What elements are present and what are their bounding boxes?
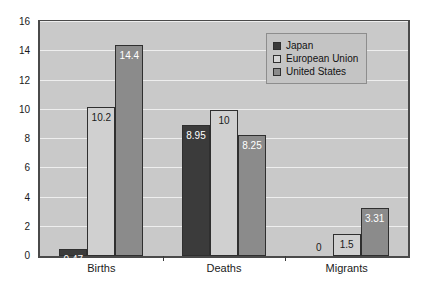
- y-axis-tick-label: 16: [0, 17, 30, 27]
- bar-value-label: 10: [211, 115, 237, 126]
- y-axis-tick-label: 12: [0, 76, 30, 86]
- legend-label: Japan: [286, 40, 313, 51]
- y-axis-tick-label: 2: [0, 222, 30, 232]
- bar-value-label: 14.4: [116, 50, 142, 61]
- bar-value-label: 8.95: [183, 130, 209, 141]
- x-axis-tick: [163, 256, 164, 261]
- bar: 0.47: [59, 249, 87, 256]
- bar: 8.25: [238, 135, 266, 256]
- legend-swatch-icon: [273, 42, 281, 50]
- bar-value-label: 0: [305, 242, 333, 253]
- bar: 10.2: [87, 107, 115, 256]
- bar: 14.4: [115, 45, 143, 256]
- y-axis-tick-label: 0: [0, 251, 30, 261]
- legend-item: Japan: [273, 39, 358, 52]
- legend-swatch-icon: [273, 68, 281, 76]
- bar-value-label: 8.25: [239, 140, 265, 151]
- y-axis-tick-label: 6: [0, 163, 30, 173]
- chart-legend: JapanEuropean UnionUnited States: [266, 33, 367, 84]
- bar-value-label: 3.31: [362, 213, 388, 224]
- bar-value-label: 1.5: [334, 239, 360, 250]
- legend-swatch-icon: [273, 55, 281, 63]
- x-axis-tick: [285, 256, 286, 261]
- bar-chart: 0.4710.214.48.95108.2501.53.31 JapanEuro…: [0, 0, 426, 296]
- legend-item: United States: [273, 65, 358, 78]
- legend-item: European Union: [273, 52, 358, 65]
- legend-label: European Union: [286, 53, 358, 64]
- x-axis-category-label: Migrants: [285, 262, 408, 274]
- plot-area: 0.4710.214.48.95108.2501.53.31 JapanEuro…: [38, 20, 410, 258]
- y-axis-tick-label: 4: [0, 193, 30, 203]
- bar: 10: [210, 110, 238, 256]
- bar: 3.31: [361, 208, 389, 256]
- y-axis-tick-label: 8: [0, 134, 30, 144]
- y-axis-tick-label: 10: [0, 105, 30, 115]
- legend-label: United States: [286, 66, 346, 77]
- bar: 8.95: [182, 125, 210, 256]
- bar: 1.5: [333, 234, 361, 256]
- bar-value-label: 10.2: [88, 112, 114, 123]
- y-axis-tick-label: 14: [0, 46, 30, 56]
- x-axis-category-label: Births: [40, 262, 163, 274]
- x-axis-category-label: Deaths: [163, 262, 286, 274]
